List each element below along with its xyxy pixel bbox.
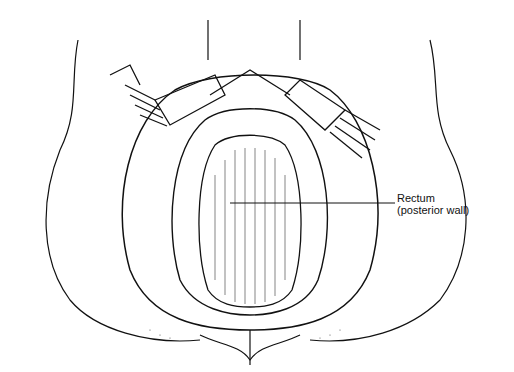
surgical-illustration: Rectum (posterior wall) [0, 0, 514, 372]
right-body-outline [310, 40, 466, 341]
illustration-drawing [0, 0, 514, 372]
rectum-label-line1: Rectum [397, 192, 469, 204]
rectum-label-line2: (posterior wall) [397, 204, 469, 216]
rectum-label: Rectum (posterior wall) [397, 192, 469, 216]
